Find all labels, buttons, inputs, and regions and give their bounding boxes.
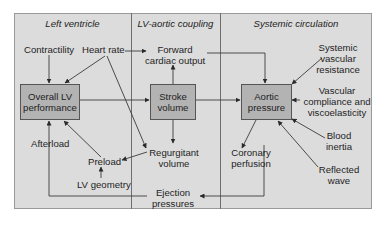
label-vascular-compliance: Vascular compliance and viscoelasticity: [301, 85, 373, 118]
label-lv-geometry: LV geometry: [77, 179, 131, 190]
coronary-line-2: perfusion: [226, 158, 276, 169]
label-preload: Preload: [88, 156, 121, 167]
stroke-volume-line-1: Stroke: [158, 91, 189, 102]
blood-inertia-line-1: Blood: [319, 130, 359, 141]
label-heart-rate: Heart rate: [82, 44, 125, 55]
label-ejection-pressures: Ejection pressures: [148, 187, 198, 209]
aortic-pressure-line-2: pressure: [248, 102, 285, 113]
svr-line-3: resistance: [313, 64, 363, 75]
label-reflected-wave: Reflected wave: [314, 164, 364, 186]
label-coronary-perfusion: Coronary perfusion: [226, 147, 276, 169]
label-regurgitant-volume: Regurgitant volume: [149, 147, 199, 169]
forward-co-line-2: cardiac output: [145, 55, 205, 66]
reflected-wave-line-2: wave: [314, 175, 364, 186]
stroke-volume-line-2: volume: [158, 102, 189, 113]
label-contractility: Contractility: [24, 44, 74, 55]
reflected-wave-line-1: Reflected: [314, 164, 364, 175]
forward-co-line-1: Forward: [145, 44, 205, 55]
overall-lv-performance-box: Overall LV performance: [20, 84, 80, 120]
aortic-pressure-line-1: Aortic: [248, 91, 285, 102]
overall-lv-line-1: Overall LV: [23, 91, 77, 102]
regurgitant-line-2: volume: [149, 158, 199, 169]
label-afterload: Afterload: [31, 138, 69, 149]
stroke-volume-box: Stroke volume: [150, 84, 196, 120]
overall-lv-line-2: performance: [23, 102, 77, 113]
label-forward-cardiac-output: Forward cardiac output: [145, 44, 205, 66]
compliance-line-1: Vascular: [301, 85, 373, 96]
blood-inertia-line-2: inertia: [319, 141, 359, 152]
coronary-line-1: Coronary: [226, 147, 276, 158]
regurgitant-line-1: Regurgitant: [149, 147, 199, 158]
label-blood-inertia: Blood inertia: [319, 130, 359, 152]
ejection-line-2: pressures: [148, 198, 198, 209]
label-systemic-vascular-resistance: Systemic vascular resistance: [313, 42, 363, 75]
svr-line-2: vascular: [313, 53, 363, 64]
compliance-line-3: viscoelasticity: [301, 107, 373, 118]
aortic-pressure-box: Aortic pressure: [241, 84, 292, 120]
compliance-line-2: compliance and: [301, 96, 373, 107]
svr-line-1: Systemic: [313, 42, 363, 53]
ejection-line-1: Ejection: [148, 187, 198, 198]
